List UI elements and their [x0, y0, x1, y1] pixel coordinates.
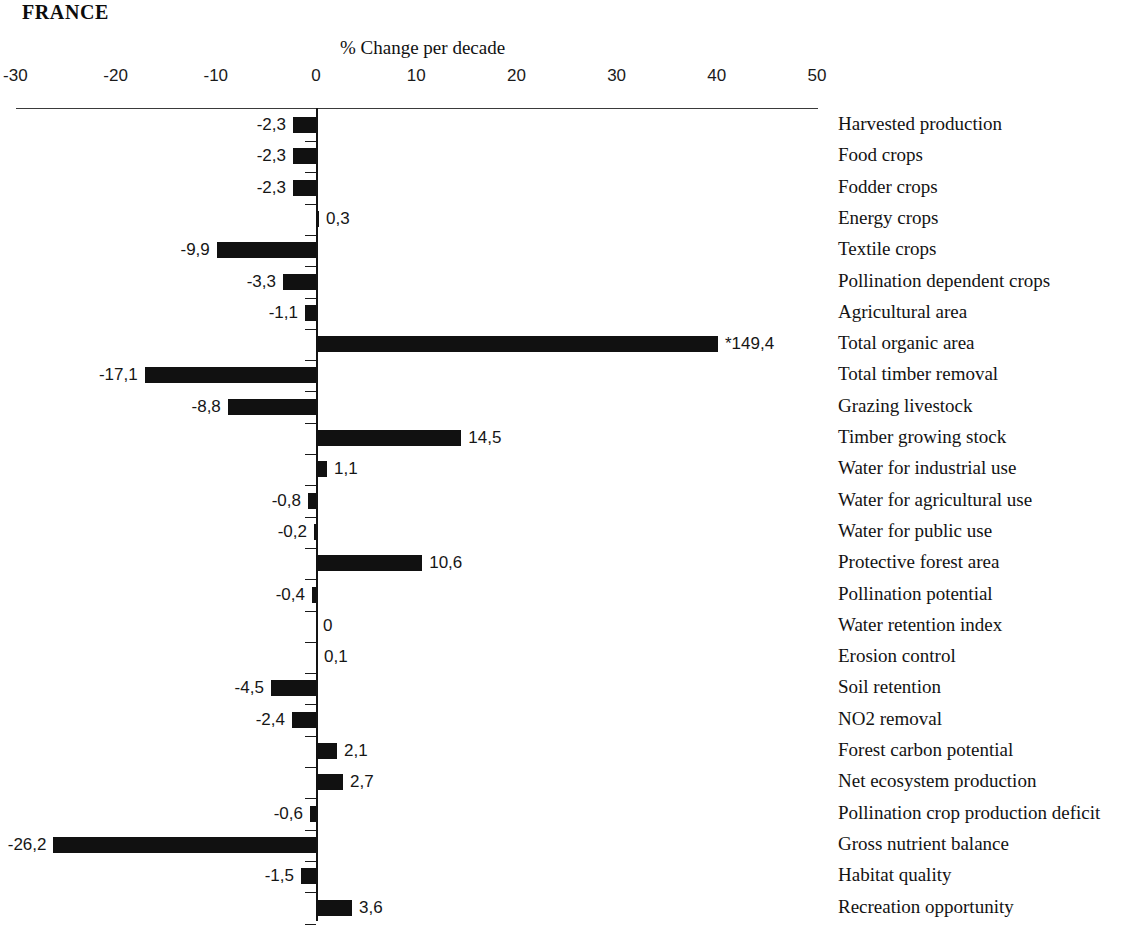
- bar: [316, 211, 319, 227]
- chart-row: 0,1Erosion control: [0, 640, 1138, 674]
- bar-value-label: -0,8: [272, 490, 301, 512]
- category-label: Harvested production: [838, 111, 1002, 137]
- category-label: Pollination potential: [838, 581, 993, 607]
- bar: [301, 868, 316, 884]
- category-label: Textile crops: [838, 236, 936, 262]
- bar-value-label: -0,2: [278, 521, 307, 543]
- bar-value-label: *149,4: [725, 333, 774, 355]
- chart-row: *149,4Total organic area: [0, 327, 1138, 361]
- bar: [145, 367, 316, 383]
- chart-row: -0,8Water for agricultural use: [0, 484, 1138, 518]
- bar-value-label: 10,6: [429, 552, 462, 574]
- chart-row: 1,1Water for industrial use: [0, 452, 1138, 486]
- bar: [316, 461, 327, 477]
- chart-row: -2,4NO2 removal: [0, 703, 1138, 737]
- category-label: NO2 removal: [838, 706, 942, 732]
- bar-value-label: 3,6: [359, 897, 383, 919]
- bar-value-label: -1,1: [269, 302, 298, 324]
- bar: [293, 180, 316, 196]
- bar-value-label: 2,1: [344, 740, 368, 762]
- category-label: Pollination crop production deficit: [838, 800, 1100, 826]
- bar: [293, 148, 316, 164]
- category-label: Fodder crops: [838, 174, 938, 200]
- category-label: Net ecosystem production: [838, 768, 1036, 794]
- bar: [308, 493, 316, 509]
- chart-row: -0,4Pollination potential: [0, 578, 1138, 612]
- bar: [271, 680, 316, 696]
- axis-tick-mark: [305, 924, 316, 925]
- bar-value-label: 0,3: [326, 208, 350, 230]
- category-label: Water for industrial use: [838, 455, 1016, 481]
- bar-value-label: 1,1: [334, 458, 358, 480]
- bar: [314, 524, 316, 540]
- category-label: Agricultural area: [838, 299, 967, 325]
- chart-row: -17,1Total timber removal: [0, 358, 1138, 392]
- bar-value-label: -2,4: [256, 709, 285, 731]
- category-label: Recreation opportunity: [838, 894, 1014, 920]
- chart-row: -9,9Textile crops: [0, 233, 1138, 267]
- bar-value-label: 2,7: [350, 771, 374, 793]
- bar: [316, 743, 337, 759]
- bar: [316, 430, 461, 446]
- bar: [53, 837, 316, 853]
- category-label: Forest carbon potential: [838, 737, 1013, 763]
- bar-value-label: -8,8: [192, 396, 221, 418]
- chart-row: -1,5Habitat quality: [0, 859, 1138, 893]
- category-label: Total timber removal: [838, 361, 998, 387]
- bar: [316, 774, 343, 790]
- bar: [316, 555, 422, 571]
- bar: [310, 806, 316, 822]
- chart-row: 2,7Net ecosystem production: [0, 765, 1138, 799]
- chart-row: -2,3Fodder crops: [0, 171, 1138, 205]
- category-label: Water for agricultural use: [838, 487, 1032, 513]
- category-label: Water retention index: [838, 612, 1002, 638]
- chart-row: 10,6Protective forest area: [0, 546, 1138, 580]
- chart-row: 14,5Timber growing stock: [0, 421, 1138, 455]
- category-label: Energy crops: [838, 205, 938, 231]
- chart-row: -3,3Pollination dependent crops: [0, 265, 1138, 299]
- bar: [283, 274, 316, 290]
- category-label: Soil retention: [838, 674, 941, 700]
- category-label: Protective forest area: [838, 549, 999, 575]
- chart-row: -2,3Food crops: [0, 139, 1138, 173]
- chart-row: -0,2Water for public use: [0, 515, 1138, 549]
- bar: [228, 399, 316, 415]
- chart-row: -0,6Pollination crop production deficit: [0, 797, 1138, 831]
- bar: [305, 305, 316, 321]
- chart-row: 0Water retention index: [0, 609, 1138, 643]
- chart-row: 3,6Recreation opportunity: [0, 891, 1138, 925]
- chart-row: -26,2Gross nutrient balance: [0, 828, 1138, 862]
- bar-value-label: -2,3: [257, 114, 286, 136]
- bar: [292, 712, 316, 728]
- bar: [217, 242, 316, 258]
- bar-value-label: -2,3: [257, 145, 286, 167]
- chart-row: -1,1Agricultural area: [0, 296, 1138, 330]
- bar-value-label: 0,1: [324, 646, 348, 668]
- category-label: Pollination dependent crops: [838, 268, 1050, 294]
- bar-value-label: -1,5: [265, 865, 294, 887]
- category-label: Food crops: [838, 142, 923, 168]
- bar-value-label: -2,3: [257, 177, 286, 199]
- chart-row: 2,1Forest carbon potential: [0, 734, 1138, 768]
- category-label: Gross nutrient balance: [838, 831, 1009, 857]
- category-label: Erosion control: [838, 643, 956, 669]
- chart-row: 0,3Energy crops: [0, 202, 1138, 236]
- bar-value-label: -9,9: [181, 239, 210, 261]
- chart-row: -4,5Soil retention: [0, 671, 1138, 705]
- bar-value-label: 14,5: [468, 427, 501, 449]
- bar-value-label: -0,6: [274, 803, 303, 825]
- bar: [316, 900, 352, 916]
- bar-value-label: 0: [323, 615, 332, 637]
- chart-row: -2,3Harvested production: [0, 108, 1138, 142]
- category-label: Grazing livestock: [838, 393, 973, 419]
- bar-value-label: -17,1: [99, 364, 138, 386]
- bar-value-label: -26,2: [8, 834, 47, 856]
- bar: [316, 336, 718, 352]
- category-label: Water for public use: [838, 518, 992, 544]
- bar: [312, 587, 316, 603]
- bar-value-label: -3,3: [247, 271, 276, 293]
- bar-value-label: -4,5: [235, 677, 264, 699]
- category-label: Total organic area: [838, 330, 975, 356]
